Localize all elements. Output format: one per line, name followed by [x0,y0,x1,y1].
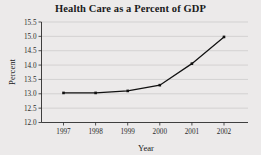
x-axis-title: Year [138,143,154,153]
x-axis-tick-label: 2000 [153,128,168,136]
data-point-marker [62,92,65,95]
gridlines-group [42,22,249,108]
chart-plot-svg: 12.012.513.013.514.014.515.015.5 1997199… [0,0,261,155]
y-axis-tick-label: 13.0 [24,90,37,98]
y-axis-tick-label: 14.5 [24,47,37,55]
x-axis-tick-label: 1998 [88,128,103,136]
chart-container: Health Care as a Percent of GDP 12.012.5… [0,0,261,155]
y-axis-tick-label: 15.0 [24,33,37,41]
data-point-marker [191,62,194,65]
x-axis-tick-label: 1997 [56,128,71,136]
x-axis-tick-label: 2002 [217,128,232,136]
y-axis-tick-label: 12.0 [24,119,37,127]
y-axis-ticks-group: 12.012.513.013.514.014.515.015.5 [24,19,42,128]
data-point-marker [126,90,129,93]
y-axis-tick-label: 12.5 [24,105,37,113]
data-point-marker [94,92,97,95]
data-point-marker [223,36,226,39]
data-point-marker [159,84,162,87]
y-axis-tick-label: 13.5 [24,76,37,84]
x-axis-tick-label: 1999 [121,128,136,136]
y-axis-tick-label: 15.5 [24,19,37,27]
x-axis-tick-label: 2001 [185,128,200,136]
y-axis-title: Percent [7,59,17,85]
x-axis-ticks-group: 199719981999200020012002 [56,123,231,137]
y-axis-tick-label: 14.0 [24,62,37,70]
